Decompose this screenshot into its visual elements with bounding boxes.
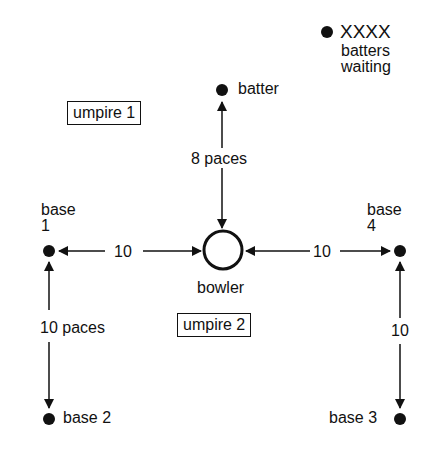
batter-dot	[216, 84, 228, 96]
base2-dot	[43, 413, 55, 425]
umpire1-box: umpire 1	[67, 101, 141, 125]
base1-label-line2: 1	[41, 217, 50, 234]
distance-base1-bowler: 10	[114, 243, 132, 260]
waiting-label-line2: waiting	[341, 58, 391, 75]
base1-label-line1: base	[41, 201, 76, 218]
base3-label: base 3	[329, 409, 377, 426]
distance-bowler-base4: 10	[313, 243, 331, 260]
base2-label: base 2	[63, 409, 111, 426]
distance-base1-base2: 10 paces	[40, 319, 105, 336]
base4-label-line2: 4	[367, 217, 376, 234]
umpire2-box: umpire 2	[177, 313, 251, 337]
batter-label: batter	[238, 80, 279, 97]
waiting-dot	[321, 26, 333, 38]
distance-bowler-batter: 8 paces	[191, 150, 247, 167]
distance-base4-base3: 10	[391, 322, 409, 339]
waiting-label-line1: batters	[341, 42, 390, 59]
base4-dot	[394, 245, 406, 257]
base4-label-line1: base	[367, 201, 402, 218]
bowler-label: bowler	[197, 279, 244, 296]
bowler-circle	[204, 231, 242, 269]
base1-dot	[43, 245, 55, 257]
waiting-marker: XXXX	[340, 22, 391, 42]
base3-dot	[394, 413, 406, 425]
